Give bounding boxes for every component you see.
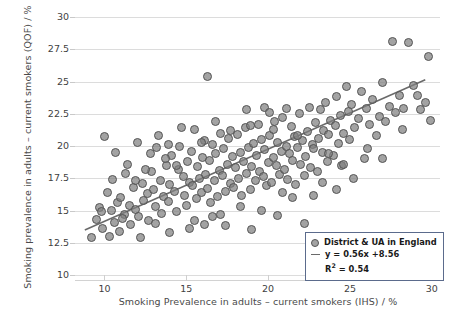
y-tick-label: 20	[29, 140, 69, 151]
data-point	[229, 183, 238, 192]
data-point	[246, 185, 255, 194]
data-point	[210, 176, 219, 185]
legend-r-squared-value: = 0.54	[336, 264, 369, 274]
data-point	[97, 207, 106, 216]
data-point	[136, 233, 145, 242]
data-point	[300, 219, 309, 228]
data-point	[269, 125, 278, 134]
y-tick-label: 15	[29, 205, 69, 216]
data-point	[141, 165, 150, 174]
data-point	[413, 91, 422, 100]
x-tick-mark	[104, 275, 105, 281]
data-point	[161, 154, 170, 163]
legend-equation-label: y = 0.56x +8.56	[325, 249, 399, 261]
y-tick-label: 12.5	[29, 237, 69, 248]
data-point	[157, 209, 166, 218]
data-point	[334, 139, 343, 148]
data-point	[398, 125, 407, 134]
data-point	[395, 91, 404, 100]
data-point	[170, 187, 179, 196]
data-point	[87, 233, 96, 242]
data-point	[362, 104, 371, 113]
x-tick-mark	[186, 275, 187, 281]
data-point	[237, 191, 246, 200]
data-point	[107, 206, 116, 215]
data-point	[321, 98, 330, 107]
data-point	[172, 161, 181, 170]
data-point	[267, 178, 276, 187]
x-tick-label: 30	[417, 283, 447, 294]
data-point	[309, 191, 318, 200]
data-point	[318, 178, 327, 187]
x-tick-mark	[268, 275, 269, 281]
data-point	[324, 130, 333, 139]
data-point	[236, 202, 245, 211]
data-point	[349, 174, 358, 183]
data-point	[388, 37, 397, 46]
data-point	[115, 227, 124, 236]
data-point	[146, 149, 155, 158]
legend-item-series: District & UA in England	[311, 237, 437, 249]
legend-r-squared-label: R2 = 0.54	[325, 260, 369, 275]
data-point	[190, 125, 199, 134]
legend-line-icon	[311, 254, 320, 255]
data-point	[421, 98, 430, 107]
data-point	[254, 120, 263, 129]
legend: District & UA in England y = 0.56x +8.56…	[305, 232, 444, 281]
data-point	[282, 104, 291, 113]
data-point	[426, 116, 435, 125]
data-point	[218, 171, 227, 180]
data-point	[331, 121, 340, 130]
data-point	[313, 167, 322, 176]
y-tick-label: 22.5	[29, 108, 69, 119]
data-point	[300, 171, 309, 180]
data-point	[133, 138, 142, 147]
data-point	[203, 72, 212, 81]
data-point	[372, 131, 381, 140]
data-point	[257, 206, 266, 215]
data-point	[216, 210, 225, 219]
y-tick-label: 25	[29, 76, 69, 87]
legend-marker-icon	[311, 239, 319, 247]
x-tick-label: 10	[89, 283, 119, 294]
data-point	[287, 122, 296, 131]
data-point	[118, 214, 127, 223]
data-point	[123, 160, 132, 169]
data-point	[197, 138, 206, 147]
y-tick-mark	[70, 275, 75, 276]
data-point	[305, 103, 314, 112]
data-point	[182, 201, 191, 210]
data-point	[105, 232, 114, 241]
data-point	[200, 220, 209, 229]
data-point	[280, 165, 289, 174]
data-point	[164, 197, 173, 206]
data-point	[121, 169, 130, 178]
legend-item-r-squared: R2 = 0.54	[311, 260, 437, 275]
data-point	[92, 215, 101, 224]
legend-series-label: District & UA in England	[324, 237, 437, 249]
y-tick-label: 17.5	[29, 172, 69, 183]
legend-item-equation: y = 0.56x +8.56	[311, 249, 437, 261]
data-point	[246, 121, 255, 130]
data-point	[175, 142, 184, 151]
data-point	[151, 219, 160, 228]
data-point	[156, 176, 165, 185]
x-axis-title: Smoking Prevalence in adults – current s…	[75, 296, 441, 307]
y-tick-label: 30	[29, 11, 69, 22]
data-point	[180, 191, 189, 200]
x-tick-label: 15	[171, 283, 201, 294]
y-tick-label: 10	[29, 269, 69, 280]
data-point	[295, 109, 304, 118]
data-point	[226, 126, 235, 135]
data-point	[365, 120, 374, 129]
x-tick-label: 20	[253, 283, 283, 294]
data-point	[339, 160, 348, 169]
data-point	[187, 147, 196, 156]
data-point	[164, 140, 173, 149]
scatter-chart: Smoking prevalence in adults – current s…	[0, 0, 463, 326]
y-tick-label: 27.5	[29, 43, 69, 54]
data-point	[296, 160, 305, 169]
x-tick-label: 25	[335, 283, 365, 294]
